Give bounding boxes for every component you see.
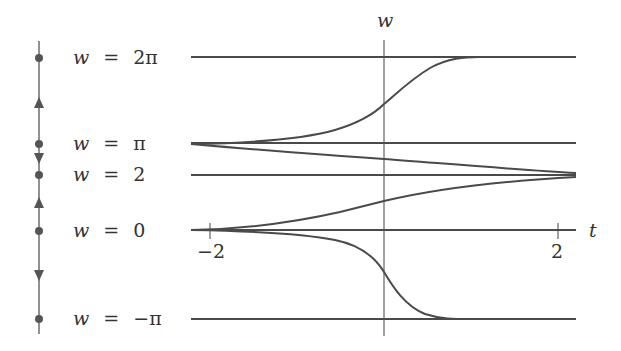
equilibrium-dot-neg-pi [35,315,43,323]
label-w-0: w = 0 [73,219,145,241]
w-axis-label: w [377,9,393,31]
label-w-neg-pi: w = −π [73,307,162,329]
arrow-up-icon [34,97,44,108]
tick-label-neg-2: −2 [197,240,225,262]
t-axis-label: t [589,219,597,241]
equilibrium-dot-2pi [35,54,43,62]
arrow-down-icon [34,270,44,281]
phase-line [34,41,44,334]
arrow-up-icon [34,197,44,208]
axes: w t −2 2 [197,9,597,336]
equilibrium-dot-2 [35,171,43,179]
arrow-down-icon [34,153,44,164]
tick-label-2: 2 [551,240,563,262]
phase-line-and-solution-diagram: w = 2π w = π w = 2 w = 0 w = −π w t [0,0,621,351]
equilibrium-labels: w = 2π w = π w = 2 w = 0 w = −π [73,46,162,329]
equilibrium-dot-0 [35,227,43,235]
label-w-2: w = 2 [73,163,145,185]
equilibrium-dot-pi [35,140,43,148]
label-w-2pi: w = 2π [73,46,158,68]
label-w-pi: w = π [73,132,146,154]
